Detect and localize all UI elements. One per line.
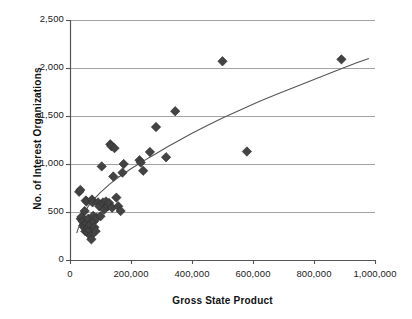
y-tick-label: 500 [22, 205, 64, 216]
y-axis-title: No. of Interest Organizations [32, 29, 43, 249]
data-point-marker [97, 162, 106, 171]
data-point-marker [119, 159, 128, 168]
data-point-marker [151, 122, 160, 131]
data-point-marker [171, 107, 180, 116]
data-point-marker [139, 166, 148, 175]
data-point-marker [161, 153, 170, 162]
data-point-marker [218, 57, 227, 66]
data-point-marker [118, 168, 127, 177]
gridlines [70, 21, 375, 213]
scatter-chart: 05001,0001,5002,0002,500 0200,000400,000… [0, 0, 412, 319]
data-point-marker [242, 147, 251, 156]
x-axis-title: Gross State Product [70, 295, 375, 306]
y-tick-label: 1,500 [22, 109, 64, 120]
data-point-marker [337, 55, 346, 64]
y-tick-label: 1,000 [22, 157, 64, 168]
y-axis-ticks [66, 21, 70, 261]
y-tick-label: 2,000 [22, 61, 64, 72]
y-tick-label: 2,500 [22, 13, 64, 24]
data-point-marker [112, 193, 121, 202]
x-tick-label: 1,000,000 [335, 268, 412, 279]
y-tick-label: 0 [22, 253, 64, 264]
data-point-marker [109, 172, 118, 181]
